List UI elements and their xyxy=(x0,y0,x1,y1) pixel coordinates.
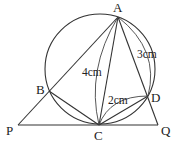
segment-PA xyxy=(18,17,118,125)
point-label-P: P xyxy=(6,123,13,138)
measure-label-CD: 2cm xyxy=(108,94,128,106)
point-label-B: B xyxy=(36,82,45,97)
point-label-D: D xyxy=(151,90,160,105)
point-label-Q: Q xyxy=(161,123,171,138)
geometry-diagram: A B C D P Q 4cm 3cm 2cm xyxy=(0,0,178,146)
segment-BC xyxy=(49,91,99,125)
segment-AC xyxy=(99,17,118,125)
measure-label-AC: 4cm xyxy=(82,66,102,78)
point-label-A: A xyxy=(113,0,123,15)
point-label-C: C xyxy=(94,128,103,143)
measure-label-AD: 3cm xyxy=(137,48,157,60)
